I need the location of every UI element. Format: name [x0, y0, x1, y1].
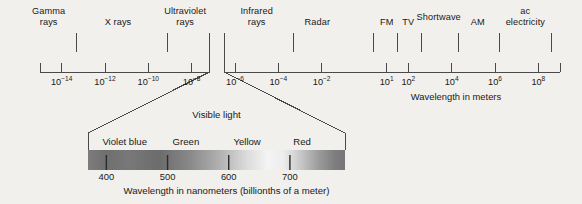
- visible-color-label: Violet blue: [102, 136, 147, 147]
- axis-caption: Wavelength in meters: [411, 91, 501, 102]
- visible-light-caption: Wavelength in nanometers (billionths of …: [123, 185, 329, 196]
- band-label: AM: [471, 17, 485, 28]
- band-label: TV: [402, 17, 414, 28]
- visible-nm-label: 600: [221, 171, 237, 182]
- axis-tick-label: 10−4: [269, 77, 287, 87]
- band-label: acelectricity: [506, 6, 545, 27]
- band-label: Infraredrays: [240, 6, 272, 27]
- visible-color-label: Green: [173, 136, 200, 147]
- axis-tick-label: 10−6: [226, 77, 244, 87]
- axis-tick-label: 104: [445, 77, 459, 87]
- band-label: X rays: [105, 17, 132, 28]
- band-label: Shortwave: [417, 12, 461, 23]
- axis-tick-label: 10−10: [138, 77, 159, 87]
- visible-nm-label: 500: [160, 171, 176, 182]
- axis-tick-label: 106: [488, 77, 502, 87]
- axis-tick-label: 10−12: [94, 77, 115, 87]
- axis-tick-label: 10−14: [51, 77, 72, 87]
- band-label: Radar: [305, 17, 331, 28]
- band-label: Gammarays: [32, 6, 65, 27]
- visible-color-label: Red: [293, 136, 311, 147]
- axis-tick-label: 102: [401, 77, 415, 87]
- band-label: Ultravioletrays: [164, 6, 206, 27]
- visible-light-gradient-bar: [88, 150, 345, 170]
- visible-nm-label: 400: [99, 171, 115, 182]
- axis-tick-label: 108: [531, 77, 545, 87]
- band-label: FM: [380, 17, 393, 28]
- axis-tick-label: 101: [380, 77, 394, 87]
- visible-color-label: Yellow: [233, 136, 260, 147]
- axis-tick-label: 10−8: [183, 77, 201, 87]
- visible-light-title: Visible light: [192, 109, 240, 120]
- axis-tick-label: 10−2: [313, 77, 331, 87]
- electromagnetic-spectrum-figure: GammaraysX raysUltravioletraysInfraredra…: [0, 0, 582, 204]
- visible-nm-label: 700: [282, 171, 298, 182]
